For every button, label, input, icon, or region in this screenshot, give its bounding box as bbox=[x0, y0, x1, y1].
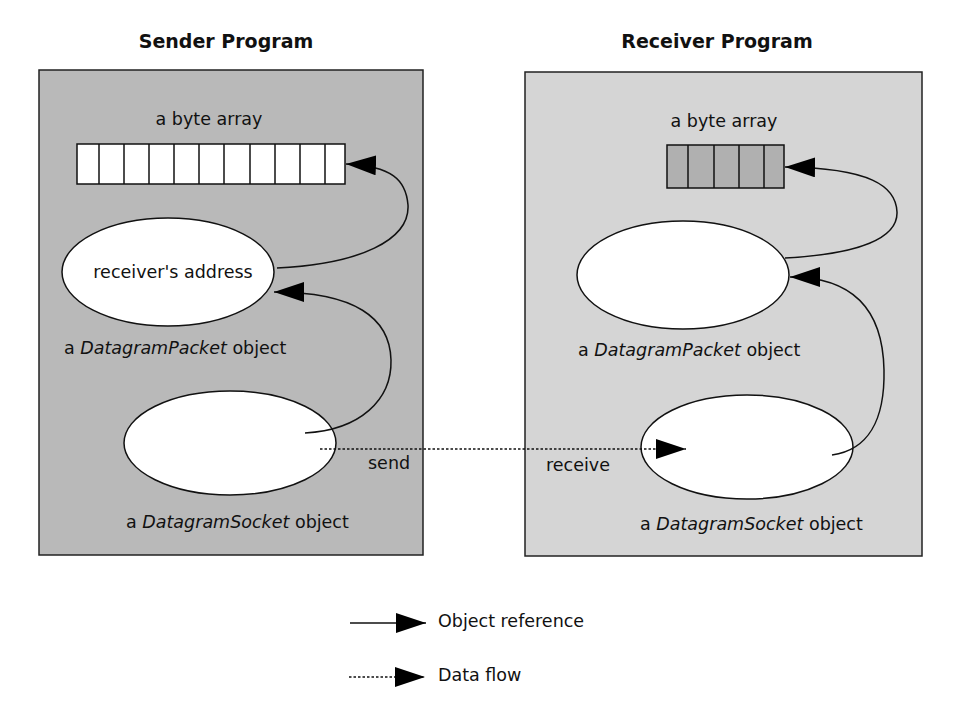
label-suffix: object bbox=[227, 338, 287, 358]
label-suffix: object bbox=[741, 340, 801, 360]
receiver-byte-array-label: a byte array bbox=[671, 111, 778, 131]
label-prefix: a bbox=[578, 340, 594, 360]
label-prefix: a bbox=[640, 514, 656, 534]
sender-datagram-socket-label: a DatagramSocket object bbox=[126, 512, 349, 532]
sender-action-label: send bbox=[368, 453, 410, 473]
receiver-datagram-packet-label: a DatagramPacket object bbox=[578, 340, 800, 360]
legend-object-reference-label: Object reference bbox=[438, 611, 584, 631]
receiver-datagram-packet-ellipse bbox=[577, 221, 789, 329]
sender-datagram-socket-ellipse bbox=[124, 391, 336, 495]
label-prefix: a bbox=[126, 512, 142, 532]
sender-datagram-packet-label: a DatagramPacket object bbox=[64, 338, 286, 358]
label-class-name: DatagramPacket bbox=[594, 340, 741, 360]
label-prefix: a bbox=[64, 338, 80, 358]
legend-data-flow-label: Data flow bbox=[438, 665, 521, 685]
sender-program-title: Sender Program bbox=[139, 30, 314, 52]
sender-byte-array-label: a byte array bbox=[156, 109, 263, 129]
receiver-action-label: receive bbox=[546, 455, 610, 475]
label-class-name: DatagramPacket bbox=[80, 338, 227, 358]
sender-byte-array bbox=[77, 144, 345, 184]
receiver-byte-array bbox=[667, 145, 784, 188]
label-class-name: DatagramSocket bbox=[142, 512, 289, 532]
receiver-program-title: Receiver Program bbox=[621, 30, 812, 52]
sender-packet-ellipse-text: receiver's address bbox=[93, 262, 252, 282]
label-suffix: object bbox=[289, 512, 349, 532]
label-suffix: object bbox=[803, 514, 863, 534]
label-class-name: DatagramSocket bbox=[656, 514, 803, 534]
receiver-datagram-socket-label: a DatagramSocket object bbox=[640, 514, 863, 534]
receiver-datagram-socket-ellipse bbox=[641, 395, 853, 499]
